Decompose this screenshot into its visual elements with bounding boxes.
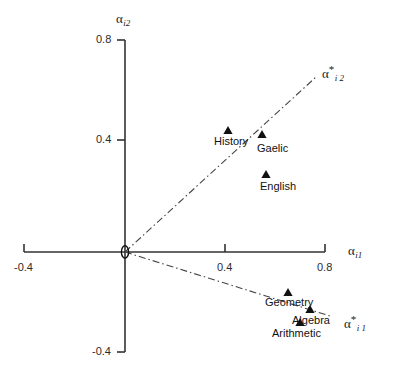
alpha-glyph-y: α	[116, 11, 123, 26]
reference-line-alpha-star-i2	[125, 77, 316, 252]
y-axis-title: αi2	[116, 12, 130, 28]
alpha-glyph-star-i2: α	[322, 66, 329, 81]
alpha-subscript-star-i1: i 1	[356, 323, 366, 333]
y-tick-label-0-8: 0.8	[96, 34, 111, 45]
point-label-geometry: Geometry	[265, 297, 313, 308]
marker-history	[223, 126, 232, 134]
x-tick-label-0-4: 0.4	[217, 262, 232, 273]
alpha-subscript-x: i1	[355, 250, 363, 260]
point-label-english: English	[260, 181, 296, 192]
point-label-gaelic: Gaelic	[257, 143, 288, 154]
alpha-star-i2-label: α*i 2	[322, 64, 344, 83]
marker-english	[261, 170, 270, 178]
alpha-glyph-x: α	[348, 243, 355, 258]
x-axis-title: αi1	[348, 244, 362, 260]
alpha-subscript-star-i2: i 2	[334, 73, 344, 83]
alpha-star-i1-label: α*i 1	[344, 314, 366, 333]
point-label-algebra: Algebra	[292, 315, 330, 326]
scatter-chart: -0.4 0.4 0.8 0.8 0.4 -0.4 αi2 αi1 α*i 2 …	[0, 0, 395, 376]
point-label-arithmetic: Arithmetic	[272, 328, 321, 339]
marker-geometry	[283, 288, 292, 296]
marker-gaelic	[257, 130, 266, 138]
y-tick-label--0-4: -0.4	[92, 346, 111, 357]
alpha-subscript-y: i2	[123, 18, 131, 28]
alpha-glyph-star-i1: α	[344, 316, 351, 331]
x-tick-label--0-4: -0.4	[14, 262, 33, 273]
y-tick-label-0-4: 0.4	[96, 134, 111, 145]
plot-area	[0, 0, 395, 376]
point-label-history: History	[214, 136, 248, 147]
x-tick-label-0-8: 0.8	[317, 262, 332, 273]
